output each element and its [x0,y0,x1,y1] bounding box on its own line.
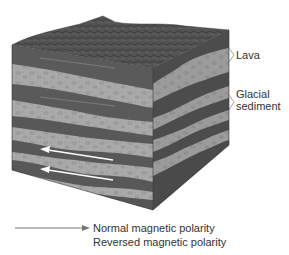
glacial-bracket [229,95,234,110]
label-lava: Lava [236,49,260,61]
label-glacial-line1: Glacial [236,88,281,100]
legend-reversed-polarity: Reversed magnetic polarity [93,236,226,248]
lava-bracket [229,48,234,62]
label-glacial-sediment: Glacial sediment [236,88,281,112]
label-glacial-line2: sediment [236,100,281,112]
legend-normal-arrow-icon [15,225,90,231]
legend-normal-polarity: Normal magnetic polarity [93,222,215,234]
rock-block-diagram [0,0,289,255]
